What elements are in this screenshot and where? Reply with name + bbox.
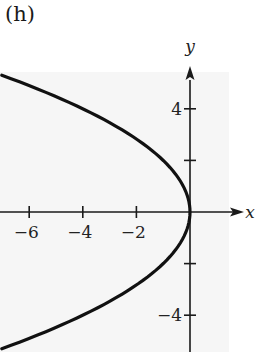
x-tick-label: −4 xyxy=(67,222,92,242)
parabola-diagram: −6−4−24−4xy xyxy=(0,0,256,352)
x-axis-label: x xyxy=(245,202,255,222)
y-tick-label: −4 xyxy=(157,305,182,325)
x-tick-label: −2 xyxy=(121,222,146,242)
y-tick-label: 4 xyxy=(171,99,182,119)
y-axis-label: y xyxy=(184,36,195,56)
x-tick-label: −6 xyxy=(14,222,39,242)
